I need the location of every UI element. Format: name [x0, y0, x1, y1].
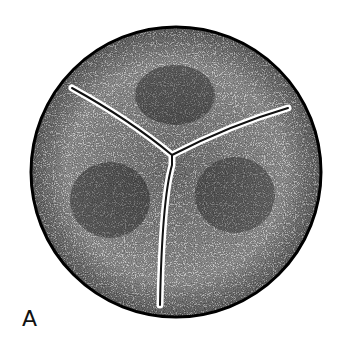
- panel-label: A: [22, 306, 37, 331]
- spore-drawing: [0, 0, 344, 344]
- spore-illustration: A: [0, 0, 344, 344]
